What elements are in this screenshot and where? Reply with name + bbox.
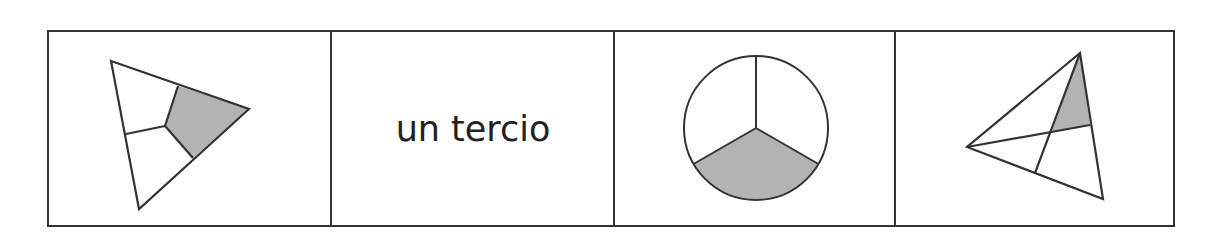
division-line xyxy=(126,126,165,134)
triangle-thirds-figure xyxy=(111,61,249,209)
shaded-sector xyxy=(694,128,819,200)
circle-thirds-figure xyxy=(684,56,828,200)
fraction-figures xyxy=(0,0,1224,242)
triangle-medians-figure xyxy=(967,53,1103,199)
median-line xyxy=(967,125,1090,147)
shaded-triangle-region xyxy=(1052,53,1090,131)
